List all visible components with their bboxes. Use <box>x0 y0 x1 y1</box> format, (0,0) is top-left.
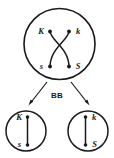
daughter-right-centromere-top <box>84 115 88 119</box>
arrow-to-right-daughter-cell <box>71 82 90 106</box>
daughter-cell-left: K s <box>6 111 46 151</box>
arrow-right-shaft <box>71 82 88 103</box>
daughter-left-centromere-top <box>26 115 30 119</box>
meiosis-diagram: K k s S BB K s <box>0 0 114 158</box>
parent-allele-bottom-right: S <box>76 61 81 71</box>
centromere-top-right <box>67 30 71 34</box>
daughter-cell-right-membrane <box>68 111 108 151</box>
daughter-left-centromere-bottom <box>26 143 30 147</box>
stage-label: BB <box>51 91 63 100</box>
parent-allele-bottom-left: s <box>39 61 44 71</box>
arrow-left-shaft <box>31 82 48 103</box>
parent-cell: K k s S <box>24 9 95 80</box>
daughter-cell-right: k S <box>68 111 108 151</box>
daughter-left-allele-bottom: s <box>17 139 22 149</box>
centromere-bottom-right <box>67 65 71 69</box>
arrow-to-left-daughter-cell <box>29 82 48 106</box>
meiosis-diagram-canvas: K k s S BB K s <box>0 0 114 158</box>
centromere-bottom-left <box>48 65 52 69</box>
daughter-right-allele-bottom: S <box>92 139 97 149</box>
parent-cell-membrane <box>24 9 95 80</box>
daughter-right-centromere-bottom <box>84 143 88 147</box>
centromere-top-left <box>48 30 52 34</box>
